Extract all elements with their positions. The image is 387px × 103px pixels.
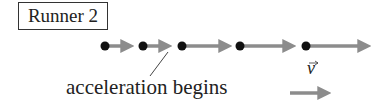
acceleration-label: acceleration begins — [66, 76, 228, 98]
velocity-symbol: v — [307, 58, 315, 79]
leader-line — [150, 52, 168, 76]
